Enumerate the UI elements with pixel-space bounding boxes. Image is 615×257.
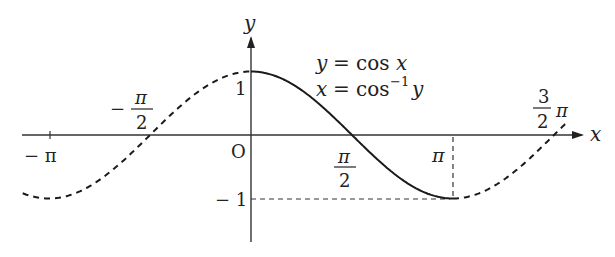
x-tick-minus-pi: − π <box>24 145 57 166</box>
fraction-denominator: 2 <box>339 170 350 191</box>
x-tick-half-pi: π 2 <box>334 146 356 191</box>
svg-text:−1: −1 <box>390 74 409 89</box>
minus-sign: − <box>110 98 125 119</box>
svg-text:y: y <box>315 51 328 75</box>
fraction-numerator: 3 <box>538 86 549 107</box>
svg-text:x: x <box>396 51 407 75</box>
fraction-denominator: 2 <box>136 112 147 133</box>
fraction-numerator: π <box>134 87 148 108</box>
cosine-graph: y x O 1 − 1 − π − π 2 π 2 π 3 2 π y = co… <box>0 0 615 257</box>
origin-label: O <box>231 141 246 162</box>
x-axis-label: x <box>590 122 601 146</box>
equation-x-equals-arccos-y: x = cos −1 y <box>316 74 424 101</box>
svg-text:y: y <box>411 77 424 101</box>
svg-text:= cos: = cos <box>333 77 390 101</box>
y-tick-minus-1: − 1 <box>215 189 247 210</box>
x-tick-pi: π <box>431 144 445 166</box>
svg-text:= cos: = cos <box>333 51 390 75</box>
fraction-denominator: 2 <box>537 111 548 132</box>
svg-text:x: x <box>316 77 327 101</box>
equation-y-equals-cos-x: y = cos x <box>315 51 407 75</box>
pi-symbol: π <box>555 100 569 121</box>
y-tick-1: 1 <box>235 78 246 99</box>
x-tick-minus-half-pi: − π 2 <box>110 87 153 133</box>
fraction-numerator: π <box>337 146 351 167</box>
y-axis-label: y <box>243 11 256 35</box>
